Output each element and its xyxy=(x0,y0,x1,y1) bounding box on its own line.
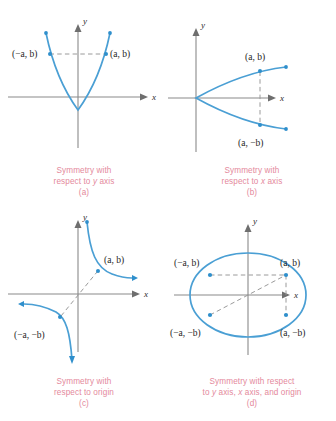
point-label-a-b: (a, b) xyxy=(104,255,124,266)
y-axis-arrow-icon xyxy=(193,28,200,36)
point-marker xyxy=(284,313,288,317)
panel-d: x y (−a, b) (a, b) (−a, −b) (a, −b) Symm… xyxy=(168,210,336,421)
curve-endpoint-arrow-icon xyxy=(132,275,138,281)
panel-index-label: (b) xyxy=(168,187,336,198)
caption-line-1: Symmetry with respect xyxy=(210,377,295,386)
point-marker xyxy=(208,313,212,317)
point-label-a-b: (a, b) xyxy=(280,258,300,269)
curve-endpoint xyxy=(44,31,48,35)
point-marker xyxy=(48,52,52,56)
curve-endpoint-arrow-icon xyxy=(69,356,75,364)
panel-index-label: (d) xyxy=(168,398,336,409)
point-marker xyxy=(58,315,62,319)
point-label-neg-a-neg-b: (−a, −b) xyxy=(14,330,45,341)
y-axis-label: y xyxy=(200,20,205,30)
panel-a-caption: Symmetry with respect to y axis (a) xyxy=(0,165,168,198)
panel-b-plot: x y (a, b) (a, −b) xyxy=(168,0,336,160)
x-axis-arrow-icon xyxy=(140,94,148,101)
point-marker xyxy=(258,123,262,127)
panel-index-label: (c) xyxy=(0,398,168,409)
y-axis-arrow-icon xyxy=(75,24,82,32)
point-label-neg-a-b: (−a, b) xyxy=(12,49,37,60)
point-marker xyxy=(96,269,100,273)
x-axis-label: x xyxy=(151,92,156,102)
panel-c-caption: Symmetry with respect to origin (c) xyxy=(0,376,168,409)
point-label-a-b: (a, b) xyxy=(110,49,130,60)
y-axis-label: y xyxy=(252,216,257,226)
point-label-a-neg-b: (a, −b) xyxy=(238,138,263,149)
x-axis-arrow-icon xyxy=(268,95,276,102)
point-label-a-b: (a, b) xyxy=(245,52,265,63)
symmetry-figure: x y (−a, b) (a, b) Symmetry with respect… xyxy=(0,0,336,421)
x-axis-arrow-icon xyxy=(132,291,140,298)
caption-line-1: Symmetry with xyxy=(57,377,112,386)
curve-endpoint xyxy=(284,127,288,131)
x-axis-label: x xyxy=(293,290,298,300)
y-axis-arrow-icon xyxy=(245,224,252,232)
curve-endpoint xyxy=(284,65,288,69)
point-label-a-neg-b: (a, −b) xyxy=(280,328,305,339)
panel-b: x y (a, b) (a, −b) Symmetry with respect… xyxy=(168,0,336,210)
caption-line-2-post: axis xyxy=(97,177,114,186)
caption-line-2-mid: axis, xyxy=(216,388,238,397)
panel-c-plot: x y (a, b) (−a, −b) xyxy=(0,210,168,370)
panel-c: x y (a, b) (−a, −b) Symmetry with respec… xyxy=(0,210,168,421)
y-axis-label: y xyxy=(82,212,87,222)
hyperbola-branch-upper xyxy=(87,222,132,278)
x-axis-label: x xyxy=(279,93,284,103)
panel-d-caption: Symmetry with respect to y axis, x axis,… xyxy=(168,376,336,409)
panel-index-label: (a) xyxy=(0,187,168,198)
y-axis-label: y xyxy=(82,16,87,26)
curve-endpoint-arrow-icon xyxy=(18,301,24,307)
point-marker xyxy=(284,273,288,277)
point-marker xyxy=(258,69,262,73)
caption-line-1: Symmetry with xyxy=(57,166,112,175)
caption-line-2-pre: respect to origin xyxy=(54,388,114,397)
caption-line-2-pre: to xyxy=(203,388,212,397)
point-marker xyxy=(104,52,108,56)
point-label-neg-a-b: (−a, b) xyxy=(174,258,199,269)
panel-a-plot: x y (−a, b) (a, b) xyxy=(0,0,168,160)
point-label-neg-a-neg-b: (−a, −b) xyxy=(170,328,201,339)
y-axis-arrow-icon xyxy=(75,220,82,228)
panel-d-plot: x y (−a, b) (a, b) (−a, −b) (a, −b) xyxy=(168,210,336,370)
caption-line-2-pre: respect to xyxy=(222,177,261,186)
caption-line-2-post: axis, and origin xyxy=(242,388,301,397)
x-axis-label: x xyxy=(143,289,148,299)
panel-a: x y (−a, b) (a, b) Symmetry with respect… xyxy=(0,0,168,210)
caption-line-2-post: axis xyxy=(265,177,282,186)
caption-line-1: Symmetry with xyxy=(225,166,280,175)
curve-endpoint xyxy=(108,31,112,35)
caption-line-2-pre: respect to xyxy=(54,177,93,186)
panel-b-caption: Symmetry with respect to x axis (b) xyxy=(168,165,336,198)
point-marker xyxy=(208,273,212,277)
